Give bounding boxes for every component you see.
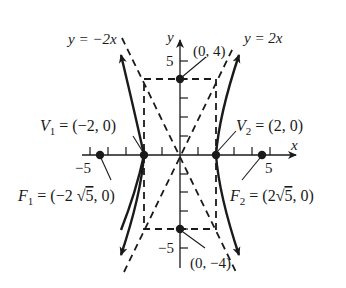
hyperbola-diagram: x −5 5 y 5 −5 (0, 0, 346, 288)
hyperbola-right-branch-lower (216, 155, 239, 255)
vertex-v1-point (140, 151, 148, 159)
vertex-v2-point (212, 151, 220, 159)
focus-f1-label: F1 = (−2 √5, 0) (17, 187, 115, 207)
x-tick-label-neg5: −5 (75, 160, 91, 176)
x-axis-label: x (290, 137, 298, 153)
hyperbola-left-branch (121, 55, 144, 230)
y-tick-label-neg5: −5 (158, 240, 174, 256)
vertex-v1-label: V1 = (−2, 0) (40, 117, 116, 137)
focus-f2-point (258, 151, 266, 159)
y-axis-label: y (165, 29, 174, 45)
asymptote-label-pos: y = 2x (242, 30, 283, 46)
vertex-v2-label: V2 = (2, 0) (236, 117, 303, 137)
asymptote-label-neg: y = −2x (66, 31, 117, 47)
focus-f2-label: F2 = (2√5, 0) (229, 187, 314, 207)
focus-f1-point (96, 151, 104, 159)
y-tick-label-5: 5 (166, 53, 174, 69)
co-vertex-bottom-point (176, 225, 184, 233)
co-vertex-top-label: (0, 4) (193, 43, 226, 60)
co-vertex-bottom-label: (0, −4) (190, 255, 231, 272)
x-tick-label-5: 5 (265, 160, 273, 176)
